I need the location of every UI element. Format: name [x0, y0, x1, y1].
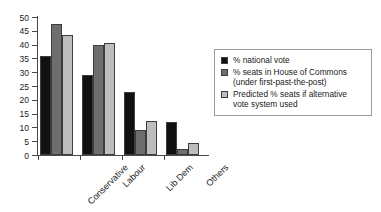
- y-axis-tick: 25: [32, 86, 37, 87]
- legend-item: % national vote: [221, 55, 365, 65]
- legend-swatch-icon: [221, 57, 228, 64]
- y-axis-tick-label: 30: [20, 68, 29, 77]
- bar: [62, 35, 73, 155]
- legend-item: % seats in House of Commons(under first-…: [221, 67, 365, 87]
- bar: [188, 143, 199, 155]
- y-axis-tick: 30: [32, 72, 37, 73]
- y-axis-tick-label: 20: [20, 96, 29, 105]
- x-axis-label: Others: [204, 163, 229, 188]
- y-axis-tick: 45: [32, 31, 37, 32]
- bar: [135, 130, 146, 155]
- plot-area: [38, 17, 206, 155]
- bar: [166, 122, 177, 155]
- legend-swatch-icon: [221, 91, 228, 98]
- y-axis-tick-label: 35: [20, 55, 29, 64]
- y-axis-tick: 15: [32, 114, 37, 115]
- bar-group: [40, 17, 73, 155]
- bar: [82, 75, 93, 155]
- y-axis-tick: 5: [32, 141, 37, 142]
- y-axis-tick: 40: [32, 45, 37, 46]
- bar-group: [166, 17, 199, 155]
- chart-legend: % national vote % seats in House of Comm…: [214, 49, 372, 116]
- y-axis-tick: 50: [32, 17, 37, 18]
- legend-item-label: Predicted % seats if alternativevote sys…: [233, 89, 347, 109]
- x-axis-line: [37, 155, 209, 156]
- x-axis-tick: [38, 156, 39, 160]
- bar: [40, 56, 51, 155]
- y-axis-tick-label: 15: [20, 110, 29, 119]
- y-axis-tick: 35: [32, 58, 37, 59]
- y-axis-tick: 20: [32, 100, 37, 101]
- y-axis-tick: 0: [32, 155, 37, 156]
- legend-item-label: % national vote: [233, 55, 290, 65]
- y-axis-tick-label: 45: [20, 27, 29, 36]
- y-axis-tick: 10: [32, 127, 37, 128]
- bar-group: [82, 17, 115, 155]
- bar-chart: 50454035302520151050 ConservativeLabourL…: [0, 0, 381, 212]
- x-axis-tick: [164, 156, 165, 160]
- y-axis-tick-label: 50: [20, 13, 29, 22]
- bar: [146, 121, 157, 156]
- bar: [177, 149, 188, 155]
- legend-item-label: % seats in House of Commons(under first-…: [233, 67, 347, 87]
- y-axis-tick-label: 10: [20, 124, 29, 133]
- bar: [51, 24, 62, 155]
- bar: [124, 92, 135, 155]
- bar: [104, 43, 115, 155]
- legend-swatch-icon: [221, 69, 228, 76]
- y-axis-tick-label: 40: [20, 41, 29, 50]
- legend-item: Predicted % seats if alternativevote sys…: [221, 89, 365, 109]
- x-axis-tick: [80, 156, 81, 160]
- y-axis-tick-label: 25: [20, 82, 29, 91]
- bar: [93, 45, 104, 155]
- bar-group: [124, 17, 157, 155]
- x-axis-tick: [122, 156, 123, 160]
- y-axis-tick-label: 5: [24, 137, 29, 146]
- x-axis-label: Lib Dem: [164, 163, 194, 193]
- y-axis-tick-label: 0: [24, 151, 29, 160]
